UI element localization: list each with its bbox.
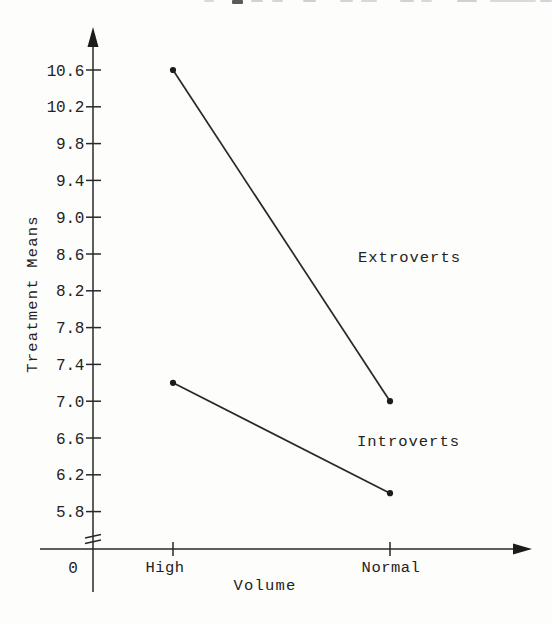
y-tick-label: 9.4 bbox=[56, 173, 84, 191]
x-axis-title: Volume bbox=[233, 577, 296, 595]
y-tick-label: 5.8 bbox=[56, 504, 84, 522]
data-point bbox=[387, 490, 393, 496]
y-tick-label: 9.8 bbox=[56, 136, 84, 154]
y-tick-label: 7.4 bbox=[56, 357, 84, 375]
y-tick-label: 7.0 bbox=[56, 394, 84, 412]
y-tick-label: 8.2 bbox=[56, 283, 84, 301]
series-label-introverts: Introverts bbox=[357, 433, 460, 451]
series-label-extroverts: Extroverts bbox=[358, 249, 461, 267]
data-point bbox=[170, 67, 176, 73]
series-line-extroverts bbox=[173, 70, 390, 401]
y-axis-arrow bbox=[88, 27, 99, 47]
data-point bbox=[387, 398, 393, 404]
y-tick-label: 10.6 bbox=[47, 63, 84, 81]
x-tick-label-normal: Normal bbox=[362, 559, 421, 577]
y-tick-label: 9.0 bbox=[56, 210, 84, 228]
x-axis-arrow bbox=[513, 544, 532, 555]
data-series bbox=[170, 67, 393, 496]
interaction-plot: 10.610.29.89.49.08.68.27.87.47.06.66.25.… bbox=[0, 0, 552, 625]
y-tick-label: 8.6 bbox=[56, 247, 84, 265]
y-tick-label: 6.2 bbox=[56, 467, 84, 485]
y-tick-label: 10.2 bbox=[47, 99, 84, 117]
y-axis-title: Treatment Means bbox=[24, 215, 42, 373]
y-tick-label: 6.6 bbox=[56, 431, 84, 449]
y-tick-label: 7.8 bbox=[56, 320, 84, 338]
x-tick-label-high: High bbox=[145, 559, 184, 577]
scanned-page: 10.610.29.89.49.08.68.27.87.47.06.66.25.… bbox=[0, 0, 552, 625]
data-point bbox=[170, 380, 176, 386]
origin-label: 0 bbox=[68, 560, 77, 578]
